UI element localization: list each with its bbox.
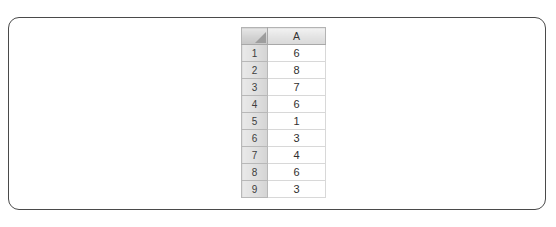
row-header-4[interactable]: 4 [242,96,268,113]
cell-a5[interactable]: 1 [268,113,326,130]
row-header-5[interactable]: 5 [242,113,268,130]
cell-a6[interactable]: 3 [268,130,326,147]
spreadsheet-header-row: A [242,28,326,45]
table-row[interactable]: 8 6 [242,164,326,181]
select-all-corner-button[interactable] [242,28,268,45]
cell-a8[interactable]: 6 [268,164,326,181]
table-row[interactable]: 2 8 [242,62,326,79]
row-header-9[interactable]: 9 [242,181,268,198]
table-row[interactable]: 4 6 [242,96,326,113]
table-row[interactable]: 1 6 [242,45,326,62]
row-header-1[interactable]: 1 [242,45,268,62]
table-row[interactable]: 7 4 [242,147,326,164]
table-row[interactable]: 3 7 [242,79,326,96]
document-panel: A 1 6 2 8 3 7 4 6 [8,17,546,210]
header-row: A [242,28,326,45]
row-header-6[interactable]: 6 [242,130,268,147]
column-header-a[interactable]: A [268,28,326,45]
cell-a2[interactable]: 8 [268,62,326,79]
spreadsheet-grid[interactable]: A 1 6 2 8 3 7 4 6 [241,27,326,198]
row-header-2[interactable]: 2 [242,62,268,79]
screenshot-root: A 1 6 2 8 3 7 4 6 [0,0,556,227]
table-row[interactable]: 6 3 [242,130,326,147]
cell-a9[interactable]: 3 [268,181,326,198]
cell-a3[interactable]: 7 [268,79,326,96]
spreadsheet-body: 1 6 2 8 3 7 4 6 5 1 [242,45,326,198]
select-all-triangle-icon [255,32,266,43]
row-header-8[interactable]: 8 [242,164,268,181]
table-row[interactable]: 9 3 [242,181,326,198]
cell-a7[interactable]: 4 [268,147,326,164]
row-header-7[interactable]: 7 [242,147,268,164]
table-row[interactable]: 5 1 [242,113,326,130]
row-header-3[interactable]: 3 [242,79,268,96]
cell-a1[interactable]: 6 [268,45,326,62]
cell-a4[interactable]: 6 [268,96,326,113]
